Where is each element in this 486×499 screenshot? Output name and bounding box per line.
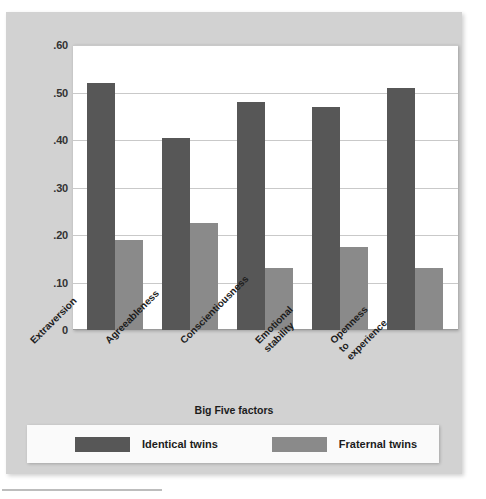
y-tick-label: .60	[53, 39, 68, 51]
legend-label: Fraternal twins	[339, 438, 417, 450]
x-axis-title: Big Five factors	[6, 404, 462, 416]
bar-identical-conscientiousness	[237, 102, 265, 330]
chart-legend: Identical twins Fraternal twins	[27, 425, 439, 463]
bar-identical-emotional-stability	[312, 107, 340, 330]
y-tick-label: .20	[53, 229, 68, 241]
figure-card: .60 .50 .40 .30 .20 .10 0 Correlation of…	[6, 12, 462, 474]
y-tick-label: .50	[53, 87, 68, 99]
legend-swatch-icon	[75, 437, 130, 452]
y-tick-label: .10	[53, 277, 68, 289]
legend-item-fraternal-twins: Fraternal twins	[272, 425, 417, 463]
y-tick-label: .40	[53, 134, 68, 146]
gridline	[73, 45, 458, 46]
legend-label: Identical twins	[142, 438, 218, 450]
y-tick-label: .30	[53, 182, 68, 194]
bar-identical-extraversion	[87, 83, 115, 330]
legend-swatch-icon	[272, 437, 327, 452]
page-divider-rule	[2, 489, 162, 491]
bar-identical-agreeableness	[162, 138, 190, 330]
plot-area	[73, 45, 458, 330]
bar-identical-openness	[387, 88, 415, 330]
legend-item-identical-twins: Identical twins	[75, 425, 218, 463]
bar-fraternal-openness	[415, 268, 443, 330]
